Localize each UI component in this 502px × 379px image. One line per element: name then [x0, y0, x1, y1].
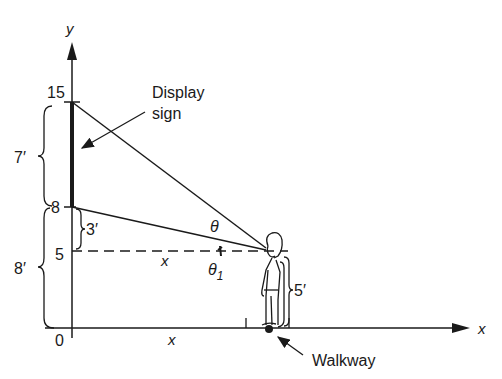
x-dashed-label: x: [160, 252, 169, 269]
theta-label: θ: [210, 218, 219, 235]
brace-7ft: [38, 106, 52, 206]
dim-sign-bottom: 8′: [14, 260, 26, 277]
x-axis-distance-label: x: [167, 331, 176, 348]
brace-5ft: [284, 257, 293, 326]
brace-8ft: [38, 208, 54, 328]
y-tick-5: 5: [55, 246, 64, 263]
sightline-top: [72, 102, 266, 248]
walkway-point: [265, 325, 273, 333]
display-sign-label-line1: Display: [152, 84, 204, 101]
walkway-label: Walkway: [312, 352, 375, 369]
x-axis-arrow-icon: [452, 323, 470, 333]
walkway-pointer: [278, 337, 303, 355]
display-sign-label-line2: sign: [152, 105, 181, 122]
y-tick-15: 15: [47, 84, 65, 101]
x-axis-label: x: [477, 320, 486, 337]
diagram-canvas: y x 15 8 5 0 7′ 8′ 3′ x θ θ1 Display sig…: [0, 0, 502, 379]
dim-eye-height: 5′: [294, 282, 306, 299]
theta1-label: θ1: [208, 261, 223, 283]
y-axis-arrow-icon: [67, 42, 77, 60]
y-tick-8: 8: [51, 199, 60, 216]
y-axis-label: y: [65, 20, 75, 37]
sightline-bottom: [72, 207, 266, 250]
origin-label: 0: [55, 332, 64, 349]
brace-3ft: [76, 209, 85, 249]
x-axis: [45, 323, 470, 333]
dim-sign-height: 7′: [14, 149, 26, 166]
dim-eye-to-sign: 3′: [86, 221, 98, 238]
